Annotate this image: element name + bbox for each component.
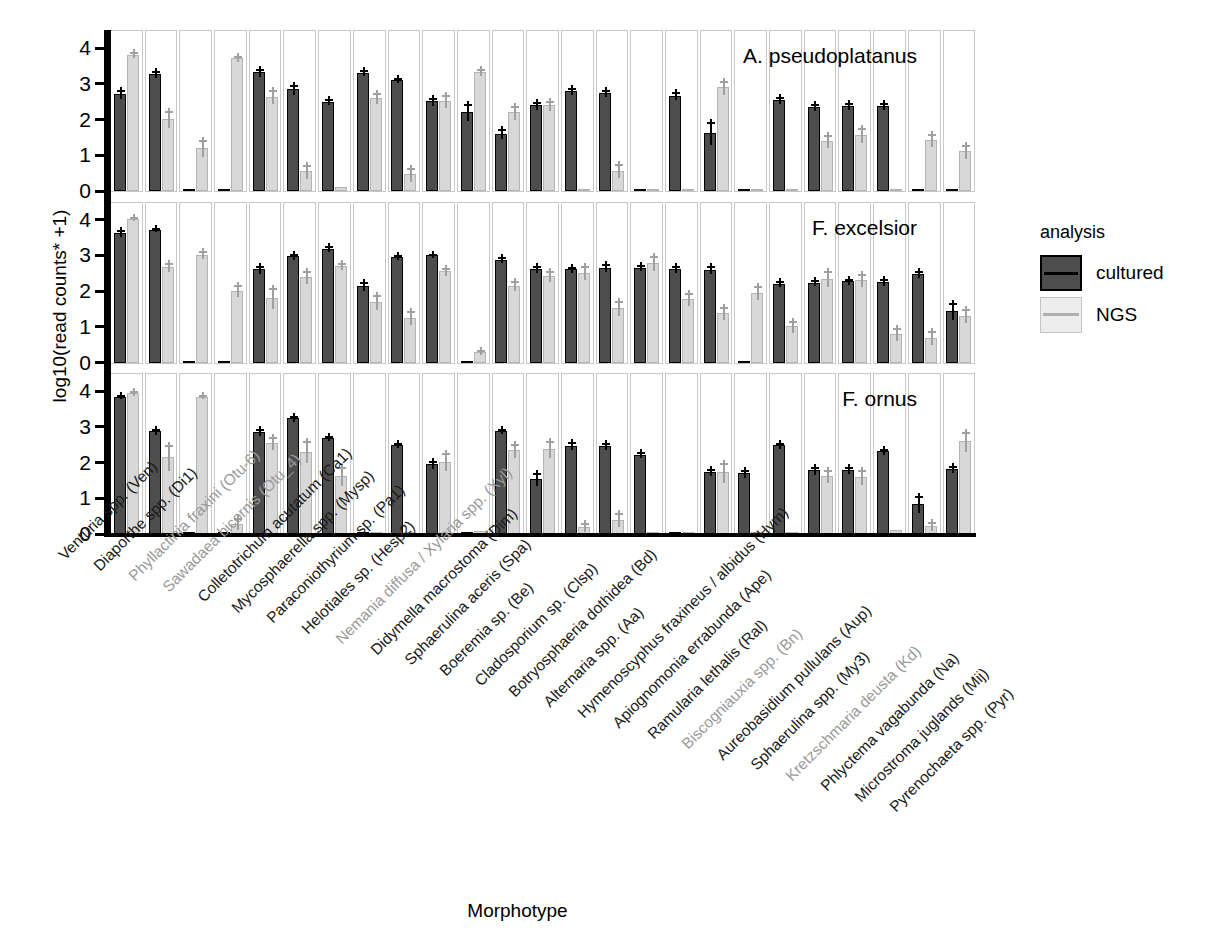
category-strip — [734, 373, 767, 535]
bar-slot — [599, 41, 611, 191]
bar-group — [111, 213, 142, 363]
bar-group — [423, 41, 454, 191]
error-bar-cap — [290, 416, 298, 418]
error-bar-cap — [568, 442, 576, 444]
bar-ngs — [404, 174, 416, 191]
bar-slot — [404, 213, 416, 363]
bar-cultured — [391, 257, 403, 363]
error-bar-cap — [754, 286, 762, 288]
bar-slot — [439, 384, 451, 534]
bar-slot — [647, 384, 659, 534]
bar-slot — [266, 213, 278, 363]
bar-group — [701, 213, 732, 363]
y-axis-ticks: 012340123401234 — [104, 30, 105, 535]
bar-cultured — [599, 268, 611, 363]
bar-cultured — [495, 134, 507, 192]
category-strip — [422, 202, 455, 364]
bar-cultured — [877, 451, 889, 534]
error-bar — [918, 268, 920, 278]
error-bar-cap — [949, 466, 957, 468]
bar-slot — [149, 213, 161, 363]
error-bar-cap — [407, 168, 415, 170]
category-strip — [318, 30, 351, 192]
category-strip — [630, 373, 663, 535]
category-strip — [665, 373, 698, 535]
error-bar — [549, 98, 551, 111]
error-bar-cap — [498, 257, 506, 259]
bar-slot — [669, 213, 681, 363]
bar-slot — [717, 41, 729, 191]
bar-ngs — [474, 72, 486, 191]
error-bar — [259, 426, 261, 436]
bar-slot — [300, 41, 312, 191]
bar-group — [631, 213, 662, 363]
bar-cultured — [738, 189, 750, 191]
bar-slot — [682, 384, 694, 534]
error-bar-cap — [789, 321, 797, 323]
y-tick-mark — [95, 361, 104, 364]
bar-ngs — [647, 189, 659, 191]
bar-cultured — [114, 94, 126, 191]
category-strip — [804, 373, 837, 535]
error-bar-cap — [880, 103, 888, 105]
bar-cultured — [565, 446, 577, 534]
error-bar-cap — [117, 90, 125, 92]
bar-cultured — [530, 105, 542, 191]
category-strip — [388, 30, 421, 192]
bar-ngs — [855, 477, 867, 534]
legend-item: NGS — [1040, 297, 1215, 333]
error-bar-cap — [373, 295, 381, 297]
error-bar-cap — [602, 264, 610, 266]
bar-group — [944, 213, 975, 363]
error-bar-cap — [394, 78, 402, 80]
bar-slot — [127, 384, 139, 534]
y-tick-mark — [95, 290, 104, 293]
bar-slot — [322, 213, 334, 363]
error-bar-cap — [303, 441, 311, 443]
bar-slot — [508, 41, 520, 191]
bar-ngs — [543, 276, 555, 362]
bar-group — [354, 41, 385, 191]
bar-slot — [578, 384, 590, 534]
error-bar-cap — [152, 228, 160, 230]
error-bar-cap — [928, 134, 936, 136]
bar-cultured — [704, 270, 716, 363]
bar-cultured — [842, 106, 854, 191]
error-bar-cap — [915, 271, 923, 273]
bar-ngs — [890, 189, 902, 191]
bar-slot — [786, 213, 798, 363]
category-strip — [561, 30, 594, 192]
bar-cultured — [808, 470, 820, 534]
bar-slot — [669, 384, 681, 534]
error-bar-cap — [824, 271, 832, 273]
error-bar-cap — [511, 444, 519, 446]
error-bar-cap — [117, 230, 125, 232]
error-bar — [744, 467, 746, 477]
bar-cultured — [773, 284, 785, 363]
error-bar-cap — [858, 274, 866, 276]
error-bar — [710, 263, 712, 274]
bar-cultured — [808, 283, 820, 363]
error-bar — [259, 263, 261, 273]
error-bar-cap — [650, 256, 658, 258]
bar-slot — [162, 41, 174, 191]
bar-slot — [704, 41, 716, 191]
error-bar-cap — [533, 473, 541, 475]
category-strip — [526, 202, 559, 364]
bar-slot — [682, 41, 694, 191]
bar-cultured — [912, 504, 924, 534]
bar-group — [180, 41, 211, 191]
category-strip — [526, 373, 559, 535]
error-bar-cap — [928, 331, 936, 333]
bar-ngs — [751, 189, 763, 191]
bar-ngs — [300, 171, 312, 191]
bar-ngs — [855, 135, 867, 191]
bar-group — [770, 213, 801, 363]
bar-slot — [300, 213, 312, 363]
category-strip — [700, 373, 733, 535]
y-tick-mark — [95, 461, 104, 464]
category-strip — [734, 202, 767, 364]
error-bar-cap — [429, 461, 437, 463]
bar-group — [146, 213, 177, 363]
error-bar-cap — [546, 101, 554, 103]
